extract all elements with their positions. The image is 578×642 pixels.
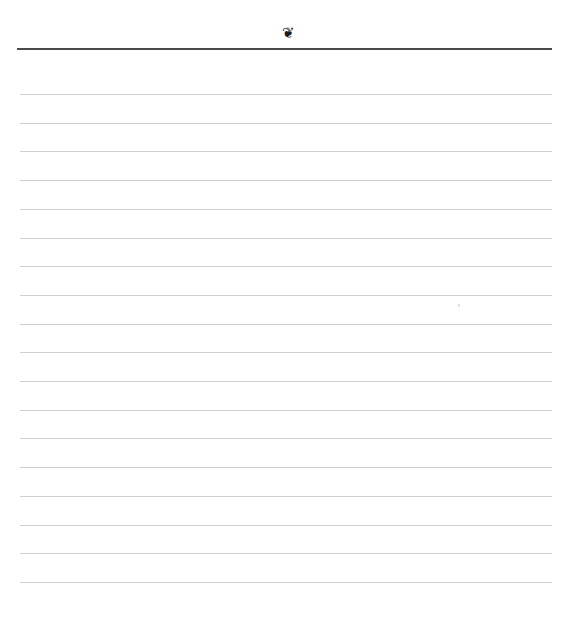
ruled-line <box>20 438 552 439</box>
ruled-line <box>20 496 552 497</box>
ruled-line <box>20 324 552 325</box>
ruled-line <box>20 94 552 95</box>
ruled-line <box>20 467 552 468</box>
ruled-line <box>20 180 552 181</box>
paper-speck <box>458 304 460 307</box>
ruled-line <box>20 582 552 583</box>
ruled-line <box>20 381 552 382</box>
ruled-line <box>20 352 552 353</box>
ruled-line <box>20 123 552 124</box>
ruled-line <box>20 295 552 296</box>
ruled-line <box>20 209 552 210</box>
ruled-line <box>20 238 552 239</box>
ruled-line <box>20 151 552 152</box>
ruled-lines <box>20 0 552 642</box>
ruled-line <box>20 525 552 526</box>
ruled-line <box>20 410 552 411</box>
lined-page: ❦ <box>0 0 578 642</box>
ruled-line <box>20 266 552 267</box>
ruled-line <box>20 553 552 554</box>
